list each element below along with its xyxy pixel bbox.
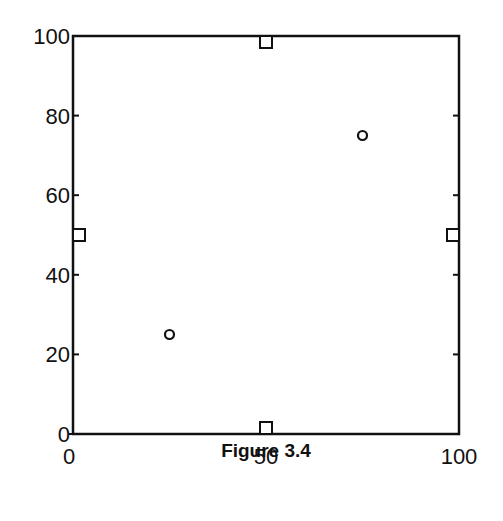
square-marker (447, 229, 459, 241)
square-marker (260, 422, 272, 434)
square-marker (260, 36, 272, 48)
circle-marker (165, 330, 174, 339)
figure-caption: Figure 3.4 (0, 440, 503, 462)
square-marker (73, 229, 85, 241)
y-tick-label: 100 (33, 24, 70, 49)
circle-marker (358, 131, 367, 140)
axis-tick-labels: 020406080100050100 (33, 24, 477, 469)
y-tick-label: 60 (46, 183, 70, 208)
y-tick-label: 20 (46, 342, 70, 367)
y-tick-label: 40 (46, 263, 70, 288)
plot-frame (73, 36, 459, 434)
y-tick-label: 80 (46, 104, 70, 129)
axis-ticks (69, 116, 459, 434)
data-markers (73, 36, 459, 434)
axes-box (73, 36, 459, 434)
